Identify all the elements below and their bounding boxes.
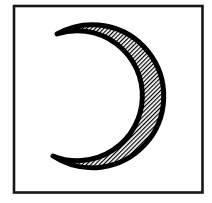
crescent-figure [0,0,212,203]
figure-panel [0,0,212,203]
